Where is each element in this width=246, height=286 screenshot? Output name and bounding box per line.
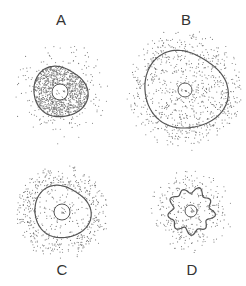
- panel-label-d: D: [182, 262, 202, 278]
- panel-label-a: A: [51, 12, 71, 28]
- cell-panel-b: [127, 31, 242, 151]
- cell-panel-c: [17, 165, 108, 258]
- panel-label-c: C: [52, 262, 72, 278]
- nucleus: [185, 205, 197, 217]
- cell-osmosis-figure: [0, 0, 246, 286]
- panel-label-b: B: [176, 12, 196, 28]
- cell-panel-d: [151, 171, 231, 253]
- nucleus: [178, 83, 192, 97]
- cell-panel-a: [16, 46, 108, 144]
- nucleus: [52, 84, 68, 100]
